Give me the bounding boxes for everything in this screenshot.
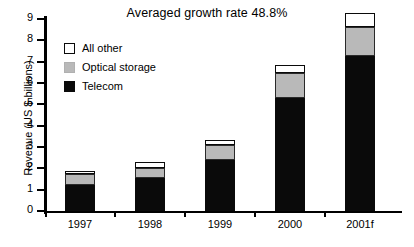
bar-2000 — [275, 65, 305, 211]
bar-segment-optical-2001f — [345, 27, 375, 56]
x-axis-label-1998: 1998 — [115, 218, 185, 230]
y-tick-label-7: 7 — [27, 53, 33, 67]
x-axis-line — [44, 211, 402, 213]
y-tick-4: 4 — [37, 125, 44, 127]
white-square-icon — [64, 43, 75, 54]
x-tick-0 — [45, 211, 47, 217]
black-square-icon — [64, 81, 75, 92]
y-tick-label-3: 3 — [27, 138, 33, 152]
y-tick-label-8: 8 — [27, 31, 33, 45]
legend-label-optical-storage: Optical storage — [82, 61, 156, 73]
bar-1997 — [65, 171, 95, 212]
bar-segment-other-2001f — [345, 13, 375, 28]
y-tick-5: 5 — [37, 103, 44, 105]
bar-segment-telecom-2000 — [275, 98, 305, 211]
bar-segment-optical-1998 — [135, 168, 165, 178]
x-axis-label-1999: 1999 — [185, 218, 255, 230]
x-tick-4 — [324, 211, 326, 217]
x-tick-2 — [184, 211, 186, 217]
y-tick-1: 1 — [37, 189, 44, 191]
gray-square-icon — [64, 62, 75, 73]
bar-segment-telecom-1997 — [65, 185, 95, 211]
x-axis-label-1997: 1997 — [45, 218, 115, 230]
y-tick-label-2: 2 — [27, 159, 33, 173]
bar-segment-optical-1999 — [205, 145, 235, 161]
bar-2001f — [345, 13, 375, 212]
legend-item-all-other: All other — [64, 40, 156, 56]
bar-segment-telecom-1999 — [205, 160, 235, 211]
bar-segment-other-1999 — [205, 140, 235, 145]
legend-label-telecom: Telecom — [82, 80, 123, 92]
y-tick-label-0: 0 — [27, 202, 33, 216]
bar-1998 — [135, 162, 165, 211]
bar-segment-optical-1997 — [65, 174, 95, 186]
y-tick-6: 6 — [37, 82, 44, 84]
x-axis-label-2000: 2000 — [255, 218, 325, 230]
y-tick-3: 3 — [37, 146, 44, 148]
chart-legend: All other Optical storage Telecom — [64, 40, 156, 97]
bar-segment-telecom-2001f — [345, 56, 375, 211]
legend-item-telecom: Telecom — [64, 78, 156, 94]
legend-label-all-other: All other — [82, 42, 122, 54]
bar-segment-other-2000 — [275, 65, 305, 74]
y-tick-label-4: 4 — [27, 117, 33, 131]
stacked-bar-chart: Averaged growth rate 48.8% Revenue (US $… — [0, 0, 414, 247]
y-tick-label-9: 9 — [27, 10, 33, 24]
x-tick-1 — [114, 211, 116, 217]
x-tick-3 — [254, 211, 256, 217]
y-tick-0: 0 — [37, 210, 44, 212]
y-tick-7: 7 — [37, 61, 44, 63]
bar-segment-other-1998 — [135, 162, 165, 168]
bar-segment-telecom-1998 — [135, 178, 165, 211]
bar-segment-other-1997 — [65, 171, 95, 174]
y-tick-8: 8 — [37, 39, 44, 41]
y-tick-label-6: 6 — [27, 74, 33, 88]
y-tick-2: 2 — [37, 167, 44, 169]
y-tick-label-1: 1 — [27, 181, 33, 195]
x-axis-label-2001f: 2001f — [325, 218, 395, 230]
bar-segment-optical-2000 — [275, 73, 305, 98]
y-axis-line — [44, 16, 47, 214]
y-tick-label-5: 5 — [27, 95, 33, 109]
bar-1999 — [205, 140, 235, 212]
y-tick-9: 9 — [37, 18, 44, 20]
legend-item-optical-storage: Optical storage — [64, 59, 156, 75]
